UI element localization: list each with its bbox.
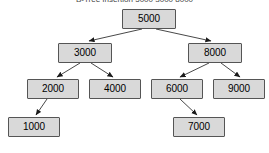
tree-node-label: 7000 xyxy=(174,118,224,136)
tree-edge-n5000-to-n3000 xyxy=(89,29,142,41)
tree-edge-n6000-to-n7000 xyxy=(180,99,197,115)
tree-node-9000[interactable]: 9000 xyxy=(213,79,265,99)
tree-node-label: 4000 xyxy=(90,80,140,98)
tree-node-label: 6000 xyxy=(152,80,202,98)
tree-node-label: 1000 xyxy=(9,118,59,136)
tree-edge-n3000-to-n2000 xyxy=(57,63,80,77)
tree-node-label: 3000 xyxy=(59,44,111,62)
tree-node-label: 2000 xyxy=(28,80,78,98)
tree-node-2000[interactable]: 2000 xyxy=(27,79,79,99)
tree-node-6000[interactable]: 6000 xyxy=(151,79,203,99)
tree-node-7000[interactable]: 7000 xyxy=(173,117,225,137)
tree-edges xyxy=(36,29,240,115)
tree-node-label: 8000 xyxy=(189,44,241,62)
tree-edge-n8000-to-n6000 xyxy=(180,63,209,77)
tree-node-label: 5000 xyxy=(123,10,175,28)
tree-node-5000[interactable]: 5000 xyxy=(122,9,176,29)
tree-edge-n5000-to-n8000 xyxy=(156,29,211,41)
bst-diagram: B-Tree Insertion 5000 3000 8000 50003000… xyxy=(0,0,269,153)
tree-node-8000[interactable]: 8000 xyxy=(188,43,242,63)
tree-edge-n8000-to-n9000 xyxy=(221,63,240,77)
tree-node-3000[interactable]: 3000 xyxy=(58,43,112,63)
tree-edge-n3000-to-n4000 xyxy=(91,63,113,77)
tree-node-1000[interactable]: 1000 xyxy=(8,117,60,137)
tree-edge-n2000-to-n1000 xyxy=(36,99,47,115)
tree-node-4000[interactable]: 4000 xyxy=(89,79,141,99)
tree-node-label: 9000 xyxy=(214,80,264,98)
